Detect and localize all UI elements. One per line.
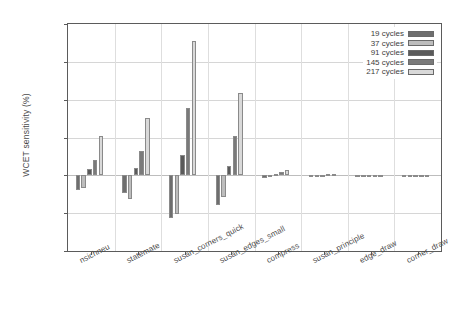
bar [128, 175, 132, 199]
bar [139, 151, 143, 176]
bar [285, 170, 289, 176]
bar [262, 175, 266, 177]
x-gridline [161, 24, 162, 251]
x-gridline [115, 24, 116, 251]
bar [309, 175, 313, 177]
bar [402, 175, 406, 177]
bar [361, 175, 365, 177]
bar [145, 118, 149, 176]
legend-swatch [408, 69, 434, 75]
legend-label: 145 cycles [366, 58, 404, 67]
y-axis-tick [64, 175, 68, 176]
legend-swatch [408, 40, 434, 46]
y-axis-tick [64, 100, 68, 101]
plot-area: 19 cycles37 cycles91 cycles145 cycles217… [67, 23, 442, 252]
y-axis-tick [64, 138, 68, 139]
bar [81, 175, 85, 187]
bar [180, 155, 184, 175]
bar [99, 136, 103, 176]
x-gridline [208, 24, 209, 251]
bar [408, 175, 412, 177]
bar [332, 174, 336, 176]
bar [233, 136, 237, 176]
bar [378, 175, 382, 177]
legend-item: 19 cycles [366, 29, 434, 38]
legend-swatch [408, 59, 434, 65]
y-axis-tick [64, 24, 68, 25]
y-axis-tick [64, 251, 68, 252]
legend-label: 19 cycles [371, 29, 404, 38]
chart-figure: WCET sensitivity (%) 19 cycles37 cycles9… [0, 0, 462, 318]
bar [221, 175, 225, 197]
bar [186, 108, 190, 175]
bar [93, 160, 97, 175]
legend-item: 145 cycles [366, 58, 434, 67]
legend-label: 37 cycles [371, 39, 404, 48]
bar [268, 175, 272, 177]
bar [122, 175, 126, 193]
x-gridline [301, 24, 302, 251]
bar [355, 175, 359, 177]
bar [175, 175, 179, 214]
y-axis-tick [64, 62, 68, 63]
bar [279, 172, 283, 176]
bar [413, 175, 417, 177]
bar [238, 93, 242, 175]
bar [216, 175, 220, 204]
chart-legend: 19 cycles37 cycles91 cycles145 cycles217… [363, 27, 437, 79]
legend-item: 217 cycles [366, 67, 434, 76]
bar [192, 41, 196, 175]
bar [326, 174, 330, 176]
bar [315, 175, 319, 177]
x-gridline [255, 24, 256, 251]
bar [373, 175, 377, 177]
legend-item: 37 cycles [366, 39, 434, 48]
legend-swatch [408, 31, 434, 37]
y-axis-tick [64, 213, 68, 214]
bar [367, 175, 371, 177]
bar [425, 175, 429, 177]
bar [274, 174, 278, 176]
y-axis-title: WCET sensitivity (%) [21, 65, 31, 205]
bar [76, 175, 80, 189]
legend-item: 91 cycles [366, 48, 434, 57]
bar [87, 169, 91, 176]
legend-label: 217 cycles [366, 67, 404, 76]
bar [419, 175, 423, 177]
x-gridline [348, 24, 349, 251]
bar [320, 175, 324, 177]
legend-swatch [408, 50, 434, 56]
bar [227, 166, 231, 175]
bar [134, 168, 138, 176]
bar [169, 175, 173, 218]
legend-label: 91 cycles [371, 48, 404, 57]
